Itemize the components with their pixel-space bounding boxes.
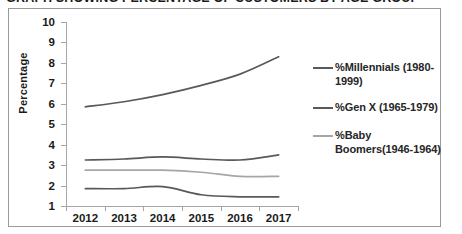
legend-line-swatch <box>313 67 333 69</box>
x-tick-mark <box>105 206 106 211</box>
series-line-1 <box>85 155 278 160</box>
y-tick-mark <box>61 186 66 187</box>
y-tick-mark <box>61 145 66 146</box>
plot-area: Percentage 10987654321 20122013201420152… <box>9 9 309 226</box>
series-line-0 <box>85 57 278 107</box>
x-tick-mark <box>182 206 183 211</box>
series-line-3 <box>85 186 278 197</box>
y-tick-mark <box>61 83 66 84</box>
legend-label: %Gen X (1965-1979) <box>335 101 438 115</box>
x-tick-mark <box>298 206 299 211</box>
y-tick-mark <box>61 63 66 64</box>
x-tick-mark <box>259 206 260 211</box>
x-tick-mark <box>143 206 144 211</box>
page-title: GRAPH SHOWING PERCENTAGE OF CUSTOMERS BY… <box>6 0 419 5</box>
chart-title-strip: GRAPH SHOWING PERCENTAGE OF CUSTOMERS BY… <box>0 0 462 7</box>
legend-entry[interactable]: %Gen X (1965-1979) <box>313 101 441 115</box>
legend-entry[interactable]: %Millennials (1980-1999) <box>313 61 441 88</box>
y-tick-mark <box>61 22 66 23</box>
x-tick-mark <box>221 206 222 211</box>
legend-line-swatch <box>313 135 333 137</box>
series-lines <box>9 9 309 226</box>
legend-label: %Millennials (1980-1999) <box>335 61 441 88</box>
legend-line-swatch <box>313 107 333 109</box>
y-tick-mark <box>61 104 66 105</box>
x-tick-label: 2017 <box>256 212 302 224</box>
chart-legend: %Millennials (1980-1999)%Gen X (1965-197… <box>309 9 441 226</box>
series-line-2 <box>85 170 278 177</box>
y-tick-mark <box>61 42 66 43</box>
legend-label: %Baby Boomers(1946-1964) <box>335 129 441 156</box>
x-tick-mark <box>66 206 67 211</box>
legend-entry[interactable]: %Baby Boomers(1946-1964) <box>313 129 441 156</box>
legend-divider <box>440 8 441 226</box>
y-tick-mark <box>61 124 66 125</box>
y-tick-mark <box>61 165 66 166</box>
chart-container: Percentage 10987654321 20122013201420152… <box>8 8 441 227</box>
